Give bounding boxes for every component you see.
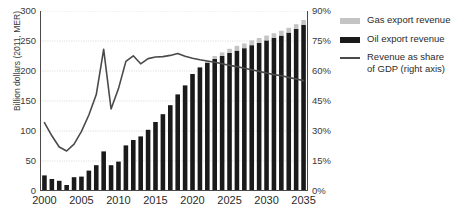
bar-oil-2027 [242,48,247,191]
chart-legend: Gas export revenue Oil export revenue Re… [340,14,455,81]
y-tick-label-100: 100 [20,126,36,136]
x-tick-label-2000: 2000 [32,194,56,206]
bar-oil-2007 [94,165,99,191]
x-tick-label-2030: 2030 [254,194,278,206]
legend-swatch-gas-icon [340,18,360,24]
legend-label-revenue-share-line1: Revenue as share [367,51,444,62]
x-tick-label-2015: 2015 [143,194,167,206]
bar-gas-2027 [242,43,247,48]
bar-oil-2013 [138,136,143,191]
x-tick-label-2005: 2005 [69,194,93,206]
bar-gas-2035 [301,20,306,25]
bar-oil-2030 [264,40,269,191]
bar-gas-2024 [220,52,225,56]
y2-tick-label-75pct: 75% [312,36,331,46]
bar-oil-2031 [272,38,277,191]
bar-oil-2028 [249,45,254,191]
legend-label-revenue-share: Revenue as share of GDP (right axis) [367,51,445,74]
bar-gas-2030 [264,36,269,41]
legend-item-oil-export-revenue: Oil export revenue [340,33,455,45]
bar-oil-2026 [235,51,240,191]
bar-oil-2020 [190,74,195,191]
legend-swatch-oil-icon [340,37,360,43]
bar-oil-2029 [257,43,262,191]
y-tick-label-150: 150 [20,96,36,106]
bar-oil-2002 [57,181,62,191]
legend-item-gas-export-revenue: Gas export revenue [340,14,455,26]
bar-oil-2018 [175,94,180,191]
bar-oil-2011 [124,145,129,191]
bar-oil-2033 [286,33,291,191]
y-tick-label-200: 200 [20,66,36,76]
bar-gas-2023 [212,56,217,59]
bar-oil-2034 [294,29,299,191]
x-tick-label-2035: 2035 [291,194,315,206]
legend-label-revenue-share-line2: of GDP (right axis) [367,63,445,74]
bar-oil-2019 [183,85,188,191]
x-tick-label-2010: 2010 [106,194,130,206]
chart-figure: Billion dollars (2011, MER) 300250200150… [0,0,455,221]
legend-label-oil: Oil export revenue [367,33,445,45]
bar-gas-2033 [286,28,291,33]
bar-oil-2004 [72,177,77,191]
bar-gas-2026 [235,46,240,51]
bar-oil-2005 [79,177,84,191]
y-tick-label-250: 250 [20,36,36,46]
bar-oil-2025 [227,53,232,191]
bar-gas-2028 [249,40,254,45]
bar-oil-2017 [168,105,173,191]
legend-item-revenue-share: Revenue as share of GDP (right axis) [340,51,455,74]
x-axis-ticks: 20002005201020152020202520302035 [40,194,308,210]
bar-oil-2008 [101,151,106,191]
chart-canvas [40,11,308,191]
bar-oil-2032 [279,36,284,191]
bar-gas-2034 [294,24,299,29]
y2-tick-label-45pct: 45% [312,96,331,106]
bar-oil-2022 [205,63,210,191]
bar-oil-2035 [301,25,306,191]
bar-oil-2009 [109,165,114,191]
plot-area [40,11,308,191]
bar-oil-2012 [131,140,136,191]
y2-tick-label-30pct: 30% [312,126,331,136]
y2-tick-label-60pct: 60% [312,66,331,76]
bar-oil-2000 [42,175,47,191]
x-tick-label-2020: 2020 [180,194,204,206]
legend-line-icon [340,57,360,59]
bar-oil-2001 [50,179,55,191]
y-axis-left-ticks: 300250200150100500 [2,11,36,191]
bar-oil-2024 [220,56,225,191]
bar-oil-2010 [116,162,121,191]
bar-gas-2025 [227,49,232,53]
bar-oil-2015 [153,122,158,191]
bar-gas-2029 [257,38,262,43]
bar-oil-2021 [198,67,203,191]
y-tick-label-50: 50 [25,156,36,166]
bar-oil-2006 [87,171,92,191]
x-tick-label-2025: 2025 [217,194,241,206]
bar-gas-2031 [272,33,277,38]
bar-oil-2023 [212,59,217,191]
bar-gas-2032 [279,31,284,36]
y-tick-label-300: 300 [20,6,36,16]
bar-oil-2016 [161,114,166,191]
y2-tick-label-90pct: 90% [312,6,331,16]
legend-label-gas: Gas export revenue [367,14,450,26]
y2-tick-label-15pct: 15% [312,156,331,166]
bar-oil-2014 [146,130,151,191]
bar-series-oil [42,25,306,191]
